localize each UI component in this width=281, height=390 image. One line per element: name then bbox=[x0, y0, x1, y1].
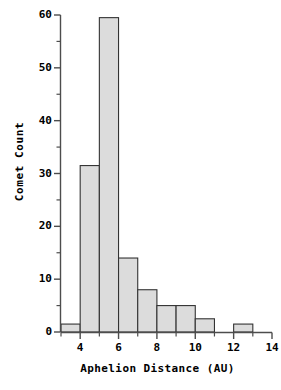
bars-group bbox=[61, 18, 253, 332]
histogram-bar bbox=[176, 306, 195, 332]
comet-histogram-figure: Comet Count Aphelion Distance (AU) 01020… bbox=[0, 0, 281, 390]
y-tick-label: 0 bbox=[18, 326, 52, 337]
y-tick-label: 10 bbox=[18, 273, 52, 284]
x-tick-label: 10 bbox=[185, 342, 205, 353]
x-tick-label: 8 bbox=[147, 342, 167, 353]
histogram-bar bbox=[80, 166, 99, 332]
y-tick-label: 30 bbox=[18, 168, 52, 179]
x-tick-label: 6 bbox=[109, 342, 129, 353]
x-tick-label: 12 bbox=[224, 342, 244, 353]
histogram-bar bbox=[119, 258, 138, 332]
histogram-bar bbox=[157, 306, 176, 332]
y-tick-label: 60 bbox=[18, 9, 52, 20]
histogram-bar bbox=[99, 18, 118, 332]
histogram-bar bbox=[195, 319, 214, 332]
histogram-bar bbox=[138, 290, 157, 332]
x-tick-label: 4 bbox=[70, 342, 90, 353]
x-tick-label: 14 bbox=[262, 342, 281, 353]
histogram-bar bbox=[61, 324, 80, 332]
y-tick-label: 40 bbox=[18, 115, 52, 126]
x-axis-label: Aphelion Distance (AU) bbox=[40, 362, 275, 375]
histogram-bar bbox=[234, 324, 253, 332]
y-tick-label: 50 bbox=[18, 62, 52, 73]
y-tick-label: 20 bbox=[18, 220, 52, 231]
